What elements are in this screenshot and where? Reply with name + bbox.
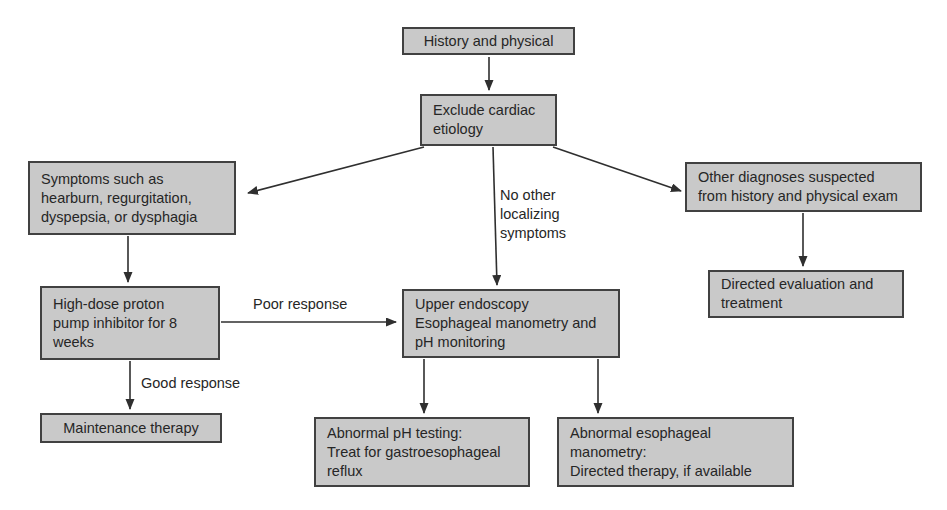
arrow-exclude-to-endoscopy	[493, 147, 497, 285]
node-endoscopy-manometry: Upper endoscopy Esophageal manometry and…	[402, 289, 620, 358]
flowchart-canvas: History and physical Exclude cardiac eti…	[0, 0, 947, 510]
node-abnormal-manometry: Abnormal esophageal manometry: Directed …	[557, 417, 794, 487]
node-maintenance-therapy: Maintenance therapy	[40, 413, 222, 443]
node-reflux-symptoms: Symptoms such as hearburn, regurgitation…	[28, 161, 236, 235]
node-abnormal-ph-testing: Abnormal pH testing: Treat for gastroeso…	[314, 417, 530, 487]
node-ppi-trial: High-dose proton pump inhibitor for 8 we…	[40, 286, 220, 360]
node-other-diagnoses: Other diagnoses suspected from history a…	[685, 162, 922, 212]
arrow-exclude-to-symptoms	[248, 147, 424, 193]
edge-label-poor-response: Poor response	[253, 295, 347, 314]
arrow-exclude-to-other-diagnoses	[553, 147, 681, 191]
edge-label-no-other-localizing: No other localizing symptoms	[500, 186, 566, 243]
node-history-and-physical: History and physical	[402, 27, 575, 55]
node-exclude-cardiac-etiology: Exclude cardiac etiology	[420, 94, 557, 146]
node-directed-evaluation: Directed evaluation and treatment	[708, 270, 904, 318]
edge-label-good-response: Good response	[141, 374, 240, 393]
